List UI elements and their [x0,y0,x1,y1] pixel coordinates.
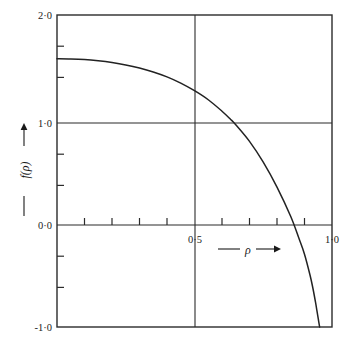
y-tick-label-minus-1-0: -1·0 [35,322,53,333]
x-tick-label-1-0: 1·0 [325,234,339,245]
x-axis-arrow-head [274,246,281,253]
plot-area: 2·0 1·0 0·0 -1·0 0·5 1·0 ρ f(ρ) [0,0,348,347]
x-tick-label-0-5: 0·5 [188,234,202,245]
y-axis-title: f(ρ) [18,123,32,216]
y-tick-label-2-0: 2·0 [38,10,52,21]
chart-figure: 2·0 1·0 0·0 -1·0 0·5 1·0 ρ f(ρ) [0,0,348,347]
y-tick-label-0-0: 0·0 [38,220,52,231]
y-axis-ticks [57,46,64,287]
x-axis-title: ρ [218,243,281,257]
y-tick-label-1-0: 1·0 [38,118,52,129]
y-axis-arrow-head [21,123,28,130]
y-axis-title-symbol: f(ρ) [18,161,32,178]
data-curve-line [57,59,320,327]
x-axis-title-symbol: ρ [244,243,251,257]
